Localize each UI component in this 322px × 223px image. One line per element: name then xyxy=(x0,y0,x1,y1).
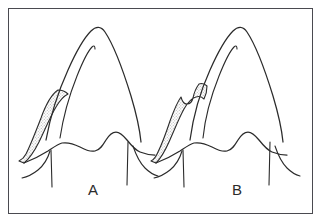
panel-b-label: B xyxy=(232,181,242,198)
panel-b-root-line-right xyxy=(275,146,300,176)
panel-a: A xyxy=(19,27,158,198)
panel-b: B xyxy=(151,27,300,198)
panel-a-crown-outline xyxy=(46,27,141,142)
panel-a-root-stem-left xyxy=(51,150,52,187)
figure-root: A B xyxy=(0,0,322,223)
panel-b-root-stem-left xyxy=(183,150,184,187)
panel-a-gingival-flap-shading xyxy=(19,90,68,163)
panel-b-crown-outline xyxy=(190,27,283,142)
panel-a-gingival-margin xyxy=(24,132,155,163)
panel-a-label: A xyxy=(88,181,98,198)
dental-diagram-svg: A B xyxy=(0,0,322,223)
panel-b-inner-ridge-line xyxy=(203,46,237,138)
panel-b-gingival-margin xyxy=(156,132,287,163)
panel-b-root-stem-right xyxy=(269,142,270,185)
panel-a-root-stem-right xyxy=(127,142,128,185)
